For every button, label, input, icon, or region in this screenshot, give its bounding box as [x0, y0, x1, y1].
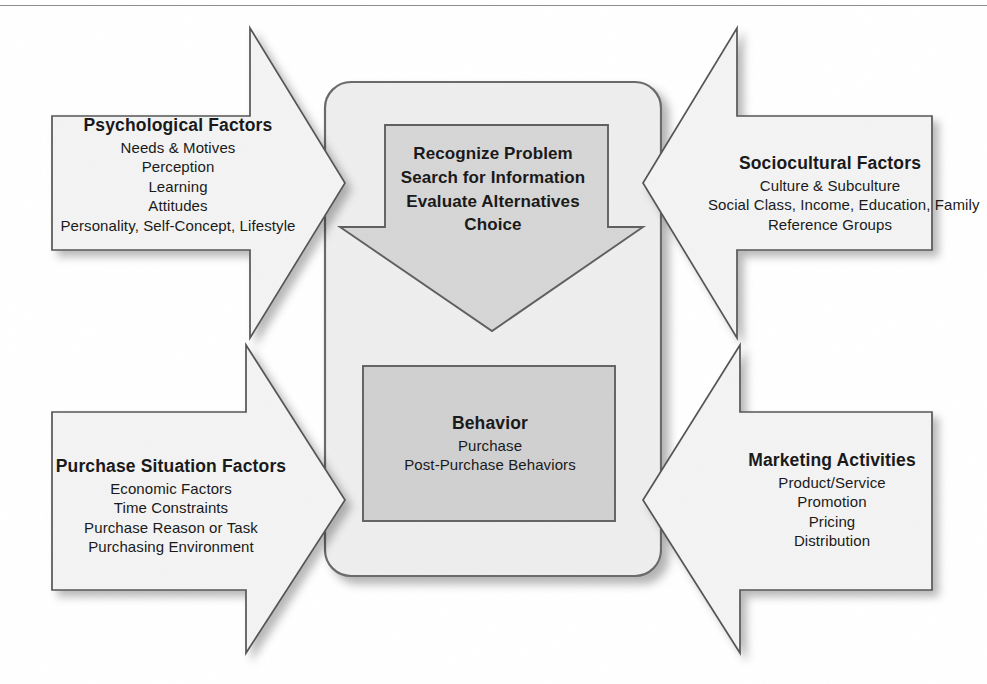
behavior-title: Behavior — [370, 412, 610, 435]
behavior-text: Behavior Purchase Post-Purchase Behavior… — [370, 412, 610, 475]
psychological-factors-line-1: Needs & Motives — [52, 138, 304, 158]
purchase-situation-factors-text: Purchase Situation Factors Economic Fact… — [45, 455, 297, 557]
consumer-decision-process-diagram — [0, 0, 987, 684]
purchase-situation-factors-line-1: Economic Factors — [45, 479, 297, 499]
marketing-activities-text: Marketing Activities Product/Service Pro… — [712, 449, 952, 551]
psychological-factors-line-3: Learning — [52, 177, 304, 197]
marketing-activities-title: Marketing Activities — [712, 449, 952, 472]
purchase-situation-factors-line-4: Purchasing Environment — [45, 537, 297, 557]
decision-process-line-3: Evaluate Alternatives — [380, 190, 606, 214]
sociocultural-factors-line-1: Culture & Subculture — [708, 176, 952, 196]
marketing-activities-line-2: Promotion — [712, 492, 952, 512]
behavior-line-2: Post-Purchase Behaviors — [370, 455, 610, 475]
psychological-factors-line-4: Attitudes — [52, 196, 304, 216]
marketing-activities-line-1: Product/Service — [712, 473, 952, 493]
purchase-situation-factors-title: Purchase Situation Factors — [45, 455, 297, 478]
decision-process-line-4: Choice — [380, 213, 606, 237]
diagram-canvas: Psychological Factors Needs & Motives Pe… — [0, 0, 987, 684]
sociocultural-factors-line-2: Social Class, Income, Education, Family — [708, 195, 952, 215]
sociocultural-factors-title: Sociocultural Factors — [708, 152, 952, 175]
decision-process-line-1: Recognize Problem — [380, 142, 606, 166]
purchase-situation-factors-line-3: Purchase Reason or Task — [45, 518, 297, 538]
psychological-factors-text: Psychological Factors Needs & Motives Pe… — [52, 114, 304, 235]
psychological-factors-line-2: Perception — [52, 157, 304, 177]
behavior-line-1: Purchase — [370, 436, 610, 456]
paper-grain-overlay — [0, 0, 987, 684]
marketing-activities-line-4: Distribution — [712, 531, 952, 551]
marketing-activities-line-3: Pricing — [712, 512, 952, 532]
sociocultural-factors-text: Sociocultural Factors Culture & Subcultu… — [708, 152, 952, 234]
purchase-situation-factors-line-2: Time Constraints — [45, 498, 297, 518]
sociocultural-factors-line-3: Reference Groups — [708, 215, 952, 235]
decision-process-text: Recognize Problem Search for Information… — [380, 142, 606, 237]
psychological-factors-line-5: Personality, Self-Concept, Lifestyle — [52, 216, 304, 236]
psychological-factors-title: Psychological Factors — [52, 114, 304, 137]
decision-process-line-2: Search for Information — [380, 166, 606, 190]
